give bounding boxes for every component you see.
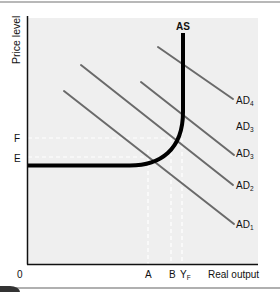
y-tick-E: E (14, 153, 21, 164)
origin-label: 0 (17, 269, 23, 280)
as-ad-chart: Price level F E 0 A B YF Real output AS … (0, 0, 280, 292)
x-axis-label: Real output (208, 269, 259, 280)
bottom-swoosh (0, 286, 20, 292)
x-tick-B: B (169, 269, 176, 280)
x-tick-A: A (145, 269, 152, 280)
x-tick-YF: YF (180, 269, 191, 281)
y-tick-F: F (14, 133, 20, 144)
as-label: AS (176, 21, 190, 32)
y-axis-label: Price level (10, 16, 22, 64)
bottom-rule (0, 287, 280, 289)
plot-area (28, 18, 258, 264)
